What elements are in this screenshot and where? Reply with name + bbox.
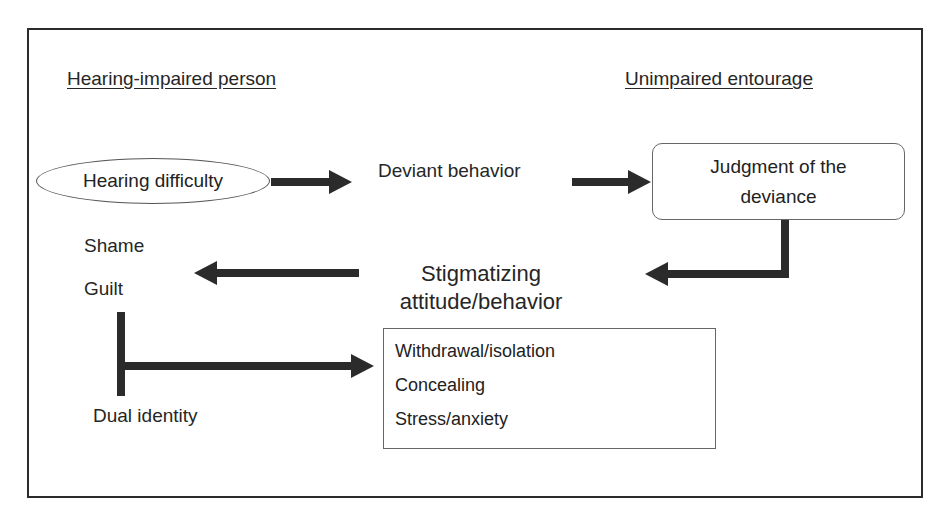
arrow-right-icon: [572, 170, 651, 194]
elbow-arrow-left-icon: [645, 220, 789, 286]
arrows-layer: [0, 0, 934, 512]
arrow-left-icon: [194, 261, 359, 285]
t-bar-connector-icon: [117, 312, 374, 396]
arrow-right-icon: [271, 170, 352, 194]
